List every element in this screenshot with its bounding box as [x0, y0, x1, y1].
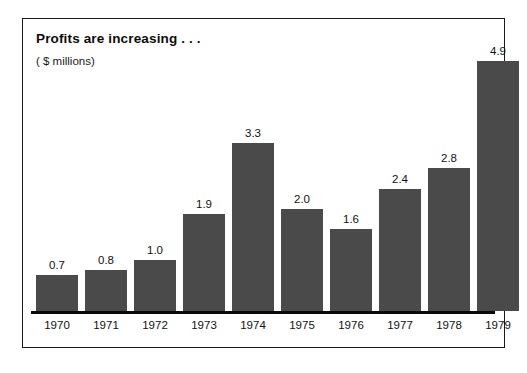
bar-value-label: 0.7: [36, 259, 78, 271]
chart-panel: Profits are increasing . . . ( $ million…: [22, 18, 505, 348]
bar-value-label: 4.9: [477, 45, 519, 57]
plot-area: 0.719700.819711.019721.919733.319742.019…: [23, 19, 506, 349]
bar-value-label: 1.6: [330, 213, 372, 225]
bar-rect[interactable]: [330, 229, 372, 311]
bar-value-label: 1.0: [134, 244, 176, 256]
bar-rect[interactable]: [281, 209, 323, 311]
bar-rect[interactable]: [134, 260, 176, 311]
bar-group[interactable]: 1.9: [183, 19, 225, 311]
bar-group[interactable]: 1.6: [330, 19, 372, 311]
bar-group[interactable]: 3.3: [232, 19, 274, 311]
bar-group[interactable]: 2.4: [379, 19, 421, 311]
bar-group[interactable]: 2.0: [281, 19, 323, 311]
x-axis-tick-label: 1972: [134, 319, 176, 331]
bar-value-label: 2.8: [428, 152, 470, 164]
bar-group[interactable]: 0.7: [36, 19, 78, 311]
x-axis-tick-label: 1971: [85, 319, 127, 331]
bar-rect[interactable]: [428, 168, 470, 311]
bar-rect[interactable]: [36, 275, 78, 311]
bar-rect[interactable]: [477, 61, 519, 311]
x-axis-tick-label: 1979: [477, 319, 519, 331]
x-axis-tick-label: 1974: [232, 319, 274, 331]
bar-rect[interactable]: [379, 189, 421, 311]
bar-group[interactable]: 1.0: [134, 19, 176, 311]
x-axis-baseline: [31, 311, 495, 314]
x-axis-tick-label: 1975: [281, 319, 323, 331]
x-axis-tick-label: 1978: [428, 319, 470, 331]
bar-rect[interactable]: [232, 143, 274, 311]
bar-value-label: 2.0: [281, 193, 323, 205]
bar-rect[interactable]: [183, 214, 225, 311]
bar-rect[interactable]: [85, 270, 127, 311]
x-axis-tick-label: 1977: [379, 319, 421, 331]
x-axis-tick-label: 1970: [36, 319, 78, 331]
bar-value-label: 2.4: [379, 173, 421, 185]
bar-group[interactable]: 0.8: [85, 19, 127, 311]
x-axis-tick-label: 1976: [330, 319, 372, 331]
x-axis-tick-label: 1973: [183, 319, 225, 331]
bar-group[interactable]: 4.9: [477, 19, 519, 311]
bar-group[interactable]: 2.8: [428, 19, 470, 311]
bar-value-label: 0.8: [85, 254, 127, 266]
bar-value-label: 3.3: [232, 127, 274, 139]
bar-value-label: 1.9: [183, 198, 225, 210]
